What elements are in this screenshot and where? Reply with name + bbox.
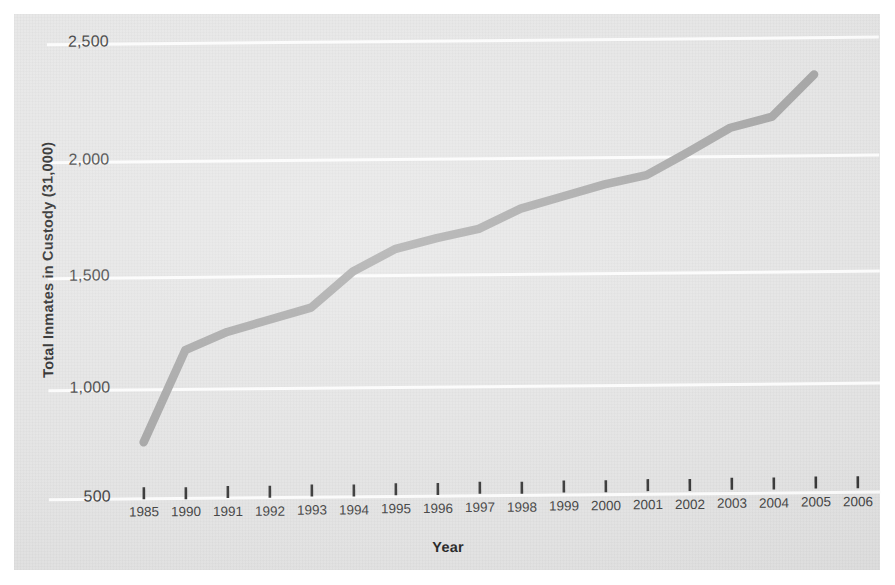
gridlines — [47, 37, 881, 500]
x-tick-label: 2002 — [675, 497, 705, 512]
y-tick-label: 2,500 — [37, 32, 109, 50]
chart-screenshot: 2,500 2,000 1,500 1,000 500 1985 1990 19… — [0, 0, 895, 585]
y-axis-title: Total Inmates in Custody (31,000) — [39, 130, 56, 390]
y-tick-label: 500 — [39, 487, 111, 505]
x-tick-label: 2004 — [759, 496, 789, 511]
x-tick-label: 1993 — [297, 503, 327, 518]
chart-skew-wrapper: 2,500 2,000 1,500 1,000 500 1985 1990 19… — [13, 12, 881, 572]
x-tick-label: 1998 — [507, 500, 537, 515]
x-tick-label: 1996 — [423, 501, 453, 516]
x-tick-label: 2001 — [633, 497, 663, 512]
x-tick-label: 1994 — [339, 502, 369, 517]
chart-panel: 2,500 2,000 1,500 1,000 500 1985 1990 19… — [14, 14, 880, 570]
x-tick-label: 1990 — [171, 504, 201, 519]
x-tick-label: 2000 — [591, 498, 621, 513]
x-tick-label: 2006 — [843, 494, 873, 509]
x-tick-label: 1985 — [129, 504, 159, 519]
x-tick-label: 1995 — [381, 501, 411, 516]
x-tick-label: 1992 — [255, 504, 285, 519]
x-tick-label: 1991 — [213, 504, 243, 519]
x-tick-label: 1997 — [465, 500, 495, 515]
line-chart-plot — [13, 12, 881, 572]
x-tick-label: 1999 — [549, 498, 579, 513]
x-tick-label: 2003 — [717, 496, 747, 511]
x-tick-label: 2005 — [801, 494, 831, 509]
